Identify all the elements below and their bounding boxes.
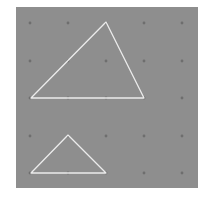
- peg: [181, 97, 184, 100]
- peg: [105, 135, 108, 138]
- peg: [29, 135, 32, 138]
- peg: [143, 135, 146, 138]
- peg: [29, 60, 32, 63]
- peg: [105, 60, 108, 63]
- peg: [29, 22, 32, 25]
- peg: [143, 22, 146, 25]
- peg: [181, 172, 184, 175]
- large-triangle: [31, 22, 144, 98]
- peg: [181, 60, 184, 63]
- peg: [143, 172, 146, 175]
- geoboard-canvas: [0, 0, 207, 199]
- peg: [67, 22, 70, 25]
- rubber-bands: [31, 22, 144, 173]
- small-triangle: [31, 135, 106, 173]
- peg: [181, 135, 184, 138]
- peg: [181, 22, 184, 25]
- peg: [143, 60, 146, 63]
